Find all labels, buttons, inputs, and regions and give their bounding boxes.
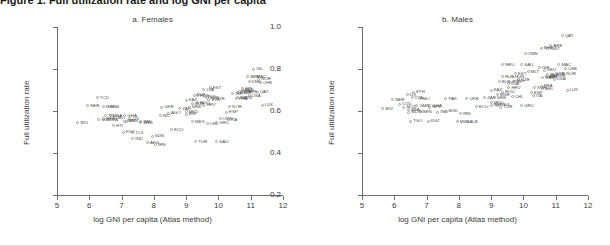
data-point — [96, 96, 99, 99]
x-tick — [251, 196, 252, 200]
data-point — [228, 105, 231, 108]
data-point — [160, 106, 163, 109]
data-point — [202, 88, 205, 91]
data-point-label: KAZ — [494, 87, 503, 92]
data-point-label: UKR — [164, 104, 173, 109]
data-point-label: AGO — [171, 110, 181, 115]
y-tick-label: 0.4 — [255, 148, 281, 157]
x-axis-title: log GNI per capita (Atlas method) — [305, 215, 610, 224]
data-point-label: BDI — [80, 120, 87, 125]
data-point — [490, 89, 493, 92]
data-point — [185, 113, 188, 116]
data-point-label: TUR — [198, 139, 207, 144]
y-tick-label: 0.6 — [255, 106, 281, 115]
y-tick — [53, 69, 57, 70]
data-point — [465, 97, 468, 100]
data-point — [215, 140, 218, 143]
data-point — [511, 95, 514, 98]
data-point — [154, 143, 157, 146]
data-point — [427, 120, 430, 123]
data-point — [131, 137, 134, 140]
data-point-label: IRN — [463, 111, 471, 116]
data-point — [490, 104, 493, 107]
data-point — [206, 122, 209, 125]
x-tick — [459, 196, 460, 200]
plot-area-males: 0.20.40.60.81.056789101112QATAREKWTBHROM… — [362, 27, 588, 195]
y-tick-label: 1.0 — [255, 22, 281, 31]
data-point-label: IND — [135, 136, 143, 141]
data-point-label: TGO — [413, 118, 423, 123]
data-point-label: BDI — [385, 106, 392, 111]
x-tick — [523, 196, 524, 200]
data-point-label: BEN — [423, 109, 432, 114]
data-point-label: KOR — [232, 104, 242, 109]
x-tick — [491, 196, 492, 200]
data-point — [543, 69, 546, 72]
data-point — [123, 114, 126, 117]
data-point — [112, 124, 115, 127]
x-tick-label: 8 — [144, 201, 164, 210]
data-point-label: LVA — [206, 87, 214, 92]
data-point-label: NRU — [505, 62, 515, 67]
data-point-label: BFA — [106, 116, 114, 121]
x-axis-line — [57, 195, 283, 196]
data-point-label: PAK — [448, 96, 456, 101]
data-point — [419, 97, 422, 100]
y-axis-title: Full utilization rate — [22, 81, 31, 145]
x-tick-label: 10 — [513, 201, 533, 210]
data-point-label: GNB — [110, 104, 120, 109]
data-point — [520, 63, 523, 66]
data-point-label: QAT — [565, 33, 574, 38]
data-point-label: USA — [557, 76, 566, 81]
y-tick — [53, 111, 57, 112]
panel-males: b. Males 0.20.40.60.81.056789101112QATAR… — [305, 0, 610, 246]
data-point — [561, 34, 564, 37]
data-point-label: BHR — [544, 45, 553, 50]
data-point-label: MEX — [195, 119, 205, 124]
x-tick — [218, 196, 219, 200]
data-point-label: OMN — [528, 51, 538, 56]
data-point — [436, 111, 439, 114]
data-point — [170, 128, 173, 131]
x-tick-label: 6 — [384, 201, 404, 210]
data-point — [106, 105, 109, 108]
data-point — [248, 80, 251, 83]
data-point — [483, 96, 486, 99]
data-point — [146, 141, 149, 144]
y-axis-line — [57, 27, 58, 195]
y-tick — [53, 27, 57, 28]
data-point — [259, 81, 262, 84]
y-tick — [358, 153, 362, 154]
y-tick — [358, 27, 362, 28]
data-point — [444, 97, 447, 100]
data-point-label: QAT — [260, 89, 269, 94]
data-point — [411, 96, 414, 99]
x-tick-label: 11 — [546, 201, 566, 210]
panel-females: a. Females 0.20.40.60.81.056789101112TCD… — [0, 0, 305, 246]
data-point — [498, 80, 501, 83]
data-point — [257, 78, 260, 81]
data-point — [194, 140, 197, 143]
data-point — [231, 92, 234, 95]
data-point-label: KGZ — [431, 118, 440, 123]
data-point — [409, 120, 412, 123]
data-point — [225, 111, 228, 114]
data-point-label: BGD — [448, 108, 458, 113]
data-point-label: IRN — [158, 142, 166, 147]
x-tick-label: 9 — [176, 201, 196, 210]
data-point-label: SAU — [524, 62, 533, 67]
data-point — [139, 121, 142, 124]
data-point-label: BGD — [143, 120, 153, 125]
y-tick — [358, 69, 362, 70]
data-point — [407, 111, 410, 114]
data-point-label: ETH — [416, 89, 425, 94]
data-point-label: LUX — [570, 87, 579, 92]
data-point — [159, 114, 162, 117]
x-tick — [588, 196, 589, 200]
data-point-label: ECU — [479, 104, 488, 109]
panel-b-title: b. Males — [305, 15, 610, 24]
data-point-label: GRC — [524, 103, 534, 108]
data-point-label: SVK — [211, 97, 220, 102]
x-tick — [362, 196, 363, 200]
data-point-label: UKR — [469, 96, 478, 101]
